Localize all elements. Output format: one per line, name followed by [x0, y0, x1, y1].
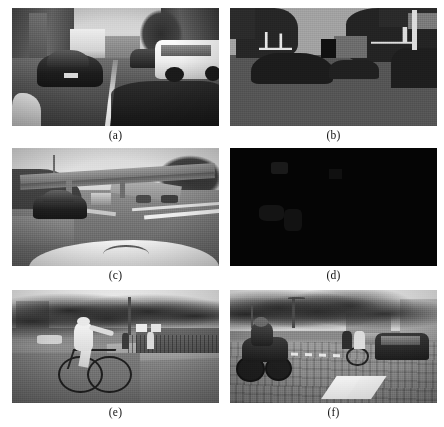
bicycle-rear-wheel: [87, 356, 132, 394]
vehicle-blob-right: [391, 48, 437, 88]
panel-c: (c): [12, 148, 219, 288]
vehicle-blob-left: [251, 53, 334, 84]
right-car-window: [381, 336, 420, 345]
panel-b: (b): [230, 8, 437, 148]
distant-car-right: [161, 195, 178, 203]
utility-pole: [53, 155, 55, 174]
street-lamp-post: [128, 297, 131, 335]
roadside-shrub: [111, 81, 219, 126]
faint-shape-lower-mid: [284, 209, 303, 230]
background-cyclist-dark: [342, 331, 352, 349]
figure-container: (a) (b): [0, 0, 444, 427]
suv-front-wheel: [165, 67, 184, 82]
panel-d-image: [230, 148, 437, 266]
lead-dark-car-roof: [43, 190, 74, 202]
mid-object-region: [334, 36, 367, 57]
mid-sign-blob: [321, 39, 335, 58]
panel-e-caption: (e): [12, 406, 219, 418]
distant-car-left: [136, 195, 150, 203]
mid-distance-truck: [91, 193, 112, 205]
faint-shape-upper: [271, 162, 288, 174]
panel-b-caption: (b): [230, 129, 437, 141]
left-edge-blob: [230, 8, 255, 39]
hood-reflection-arc: [103, 245, 149, 264]
panel-a-caption: (a): [12, 129, 219, 141]
panel-e: (e): [12, 290, 219, 427]
license-plate: [64, 73, 78, 78]
panel-d: (d): [230, 148, 437, 288]
panel-c-caption: (c): [12, 269, 219, 281]
street-lamp-post: [292, 297, 295, 329]
pedestrian-right: [147, 332, 154, 349]
suv-window: [161, 45, 211, 57]
background-cyclist-light: [354, 331, 364, 349]
suv-rear-wheel: [205, 66, 220, 81]
pedestrian-left: [122, 333, 129, 349]
panel-b-image: [230, 8, 437, 126]
panel-a: (a): [12, 8, 219, 148]
panel-d-caption: (d): [230, 269, 437, 281]
faint-shape-top-mid: [329, 169, 341, 178]
faint-shape-lower-left: [259, 205, 284, 222]
street-lamp-arm: [288, 297, 305, 299]
panel-e-image: [12, 290, 219, 403]
panel-f-image: [230, 290, 437, 403]
street-sign-right: [151, 324, 161, 332]
bridge-pier-right: [120, 180, 125, 198]
pole-highlight: [412, 10, 417, 50]
panel-f: (f): [230, 290, 437, 427]
background-bicycle-wheel: [346, 347, 369, 367]
parked-car: [37, 335, 62, 344]
panel-f-caption: (f): [230, 406, 437, 418]
dark-sedan-roof: [47, 50, 88, 67]
panel-a-image: [12, 8, 219, 126]
panel-c-image: [12, 148, 219, 266]
street-sign-left: [136, 324, 146, 332]
left-shoulder: [12, 216, 74, 244]
fence: [128, 335, 219, 353]
cyclist-head: [77, 317, 89, 326]
vehicle-blob-mid: [329, 60, 379, 79]
